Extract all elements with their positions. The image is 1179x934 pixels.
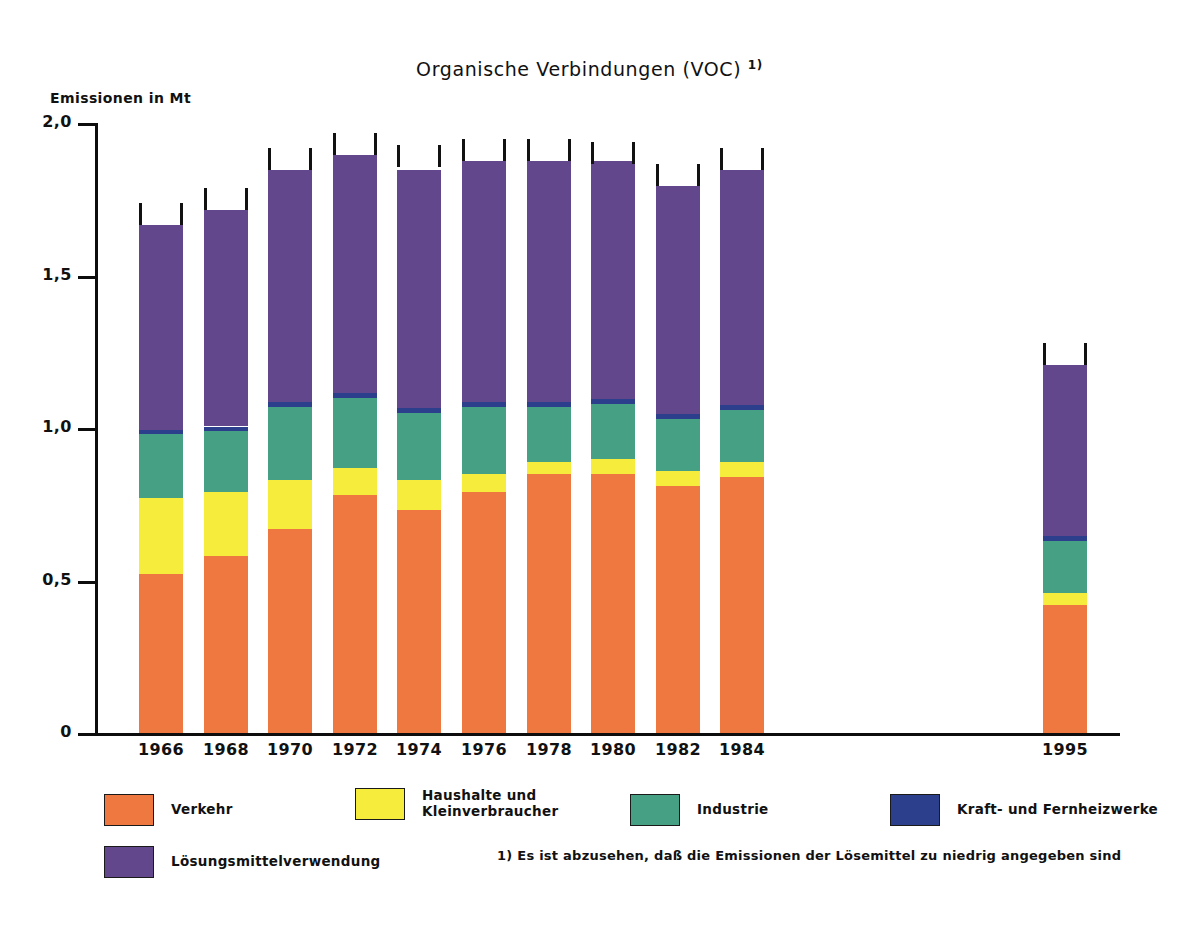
chart-figure: Organische Verbindungen (VOC) 1) Emissio… <box>0 0 1179 934</box>
bar-segment-verkehr[interactable] <box>204 556 248 733</box>
legend-item-verkehr[interactable]: Verkehr <box>104 794 233 826</box>
bar-segment-industrie[interactable] <box>397 413 441 480</box>
bar-segment-l-sungsmittelverwendung[interactable] <box>720 170 764 405</box>
bar-segment-industrie[interactable] <box>333 398 377 468</box>
bar-segment-kraft-und-fernheizwerke[interactable] <box>720 405 764 410</box>
bar-1978[interactable] <box>527 123 571 733</box>
x-tick-label-1980: 1980 <box>577 740 649 759</box>
bar-segment-kraft-und-fernheizwerke[interactable] <box>462 402 506 407</box>
x-tick-label-1966: 1966 <box>125 740 197 759</box>
bar-segment-industrie[interactable] <box>656 419 700 471</box>
bar-segment-industrie[interactable] <box>591 404 635 459</box>
bar-segment-kraft-und-fernheizwerke[interactable] <box>397 408 441 413</box>
bar-1984[interactable] <box>720 123 764 733</box>
plot-area <box>95 123 1120 733</box>
bar-1980[interactable] <box>591 123 635 733</box>
bar-segment-kraft-und-fernheizwerke[interactable] <box>333 393 377 398</box>
bar-segment-verkehr[interactable] <box>333 495 377 733</box>
bar-segment-l-sungsmittelverwendung[interactable] <box>591 161 635 399</box>
bar-segment-verkehr[interactable] <box>656 486 700 733</box>
bar-segment-industrie[interactable] <box>268 407 312 480</box>
bar-segment-l-sungsmittelverwendung[interactable] <box>1043 365 1087 536</box>
bar-cap-bracket <box>462 139 506 161</box>
bar-segment-haushalte-und[interactable] <box>268 480 312 529</box>
bar-segment-industrie[interactable] <box>204 431 248 492</box>
bar-segment-kraft-und-fernheizwerke[interactable] <box>591 399 635 404</box>
bar-1970[interactable] <box>268 123 312 733</box>
bar-segment-haushalte-und[interactable] <box>720 462 764 477</box>
bar-segment-l-sungsmittelverwendung[interactable] <box>333 155 377 393</box>
bar-1995[interactable] <box>1043 123 1087 733</box>
y-tick-label: 0,5 <box>12 570 72 589</box>
bar-segment-verkehr[interactable] <box>462 492 506 733</box>
bar-cap-bracket <box>204 188 248 210</box>
bar-segment-verkehr[interactable] <box>1043 605 1087 733</box>
legend-item-loesungsmittelverwendung[interactable]: Lösungsmittelverwendung <box>104 846 381 878</box>
bar-segment-industrie[interactable] <box>139 434 183 498</box>
bar-segment-verkehr[interactable] <box>397 510 441 733</box>
chart-title: Organische Verbindungen (VOC) 1) <box>0 58 1179 80</box>
bar-segment-kraft-und-fernheizwerke[interactable] <box>204 427 248 432</box>
x-tick-label-1972: 1972 <box>319 740 391 759</box>
bar-segment-kraft-und-fernheizwerke[interactable] <box>656 414 700 419</box>
bar-cap-bracket <box>139 203 183 225</box>
bar-segment-l-sungsmittelverwendung[interactable] <box>462 161 506 402</box>
bar-segment-haushalte-und[interactable] <box>591 459 635 474</box>
bar-segment-haushalte-und[interactable] <box>333 468 377 495</box>
bar-1982[interactable] <box>656 123 700 733</box>
bar-segment-l-sungsmittelverwendung[interactable] <box>204 210 248 427</box>
bar-segment-verkehr[interactable] <box>591 474 635 733</box>
bar-segment-haushalte-und[interactable] <box>139 498 183 574</box>
legend-item-industrie[interactable]: Industrie <box>630 794 769 826</box>
bar-segment-haushalte-und[interactable] <box>397 480 441 511</box>
bar-segment-l-sungsmittelverwendung[interactable] <box>397 170 441 408</box>
legend-label-industrie: Industrie <box>697 802 769 818</box>
legend-label-loesungsmittelverwendung: Lösungsmittelverwendung <box>171 854 381 870</box>
bar-cap-bracket <box>1043 343 1087 365</box>
bar-segment-haushalte-und[interactable] <box>1043 593 1087 605</box>
x-tick-label-1976: 1976 <box>448 740 520 759</box>
bar-segment-l-sungsmittelverwendung[interactable] <box>656 186 700 415</box>
legend-swatch-verkehr <box>104 794 154 826</box>
x-axis-line <box>95 733 1120 736</box>
bar-segment-haushalte-und[interactable] <box>527 462 571 474</box>
chart-legend: VerkehrHaushalte und KleinverbraucherInd… <box>0 780 1179 900</box>
bar-segment-industrie[interactable] <box>1043 541 1087 593</box>
chart-title-text: Organische Verbindungen (VOC) <box>416 58 741 80</box>
bar-1974[interactable] <box>397 123 441 733</box>
bar-segment-industrie[interactable] <box>462 407 506 474</box>
y-tick-label: 1,0 <box>12 417 72 436</box>
x-tick-labels: 1966196819701972197419761978198019821984… <box>95 740 1120 766</box>
bar-segment-verkehr[interactable] <box>139 574 183 733</box>
bar-segment-kraft-und-fernheizwerke[interactable] <box>1043 536 1087 541</box>
x-tick-label-1984: 1984 <box>706 740 778 759</box>
bar-segment-l-sungsmittelverwendung[interactable] <box>527 161 571 402</box>
bar-1976[interactable] <box>462 123 506 733</box>
bar-1968[interactable] <box>204 123 248 733</box>
bar-segment-verkehr[interactable] <box>720 477 764 733</box>
bar-1972[interactable] <box>333 123 377 733</box>
bar-segment-haushalte-und[interactable] <box>462 474 506 492</box>
bar-segment-haushalte-und[interactable] <box>656 471 700 486</box>
x-tick-label-1970: 1970 <box>254 740 326 759</box>
legend-item-haushalte-kleinverbraucher[interactable]: Haushalte und Kleinverbraucher <box>355 788 558 820</box>
y-axis-label: Emissionen in Mt <box>50 90 191 106</box>
chart-footnote: 1) Es ist abzusehen, daß die Emissionen … <box>497 848 1121 863</box>
legend-label-verkehr: Verkehr <box>171 802 233 818</box>
legend-item-kraft-fernheizwerke[interactable]: Kraft- und Fernheizwerke <box>890 794 1158 826</box>
bar-segment-industrie[interactable] <box>720 410 764 462</box>
bar-segment-l-sungsmittelverwendung[interactable] <box>268 170 312 402</box>
bar-segment-kraft-und-fernheizwerke[interactable] <box>139 430 183 435</box>
bar-segment-verkehr[interactable] <box>268 529 312 733</box>
bar-segment-verkehr[interactable] <box>527 474 571 733</box>
bar-segment-haushalte-und[interactable] <box>204 492 248 556</box>
y-tick-0 <box>78 733 98 736</box>
x-tick-label-1982: 1982 <box>642 740 714 759</box>
bar-segment-kraft-und-fernheizwerke[interactable] <box>268 402 312 407</box>
bar-cap-bracket <box>333 133 377 155</box>
bar-1966[interactable] <box>139 123 183 733</box>
x-tick-label-1978: 1978 <box>513 740 585 759</box>
bar-segment-kraft-und-fernheizwerke[interactable] <box>527 402 571 407</box>
bar-segment-l-sungsmittelverwendung[interactable] <box>139 225 183 429</box>
bar-segment-industrie[interactable] <box>527 407 571 462</box>
